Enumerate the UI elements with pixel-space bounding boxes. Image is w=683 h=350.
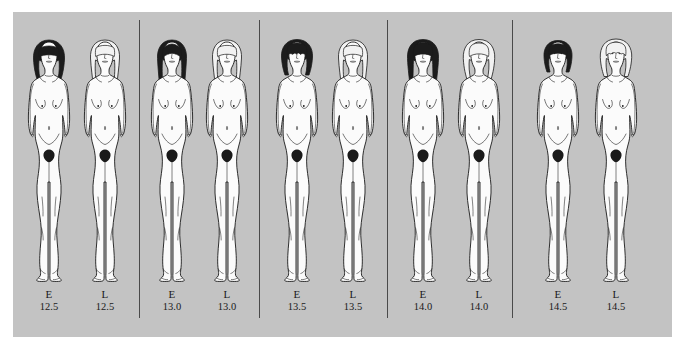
panel-separator-1 bbox=[139, 20, 140, 318]
stage-letter: L bbox=[587, 288, 645, 301]
stage-panel: E14.0L14.0 bbox=[388, 12, 512, 337]
subject-label: L14.5 bbox=[587, 288, 645, 313]
stage-letter: L bbox=[450, 288, 508, 301]
subject-figure bbox=[76, 22, 134, 284]
subject-label: L13.0 bbox=[198, 288, 256, 313]
stage-letter: E bbox=[20, 288, 78, 301]
subject-pair bbox=[513, 22, 658, 284]
subject-figure bbox=[198, 22, 256, 284]
subject-figure bbox=[143, 22, 201, 284]
panel-labels: E14.0L14.0 bbox=[388, 288, 512, 328]
subject-pair bbox=[140, 22, 259, 284]
age-value: 13.0 bbox=[198, 301, 256, 313]
subject-figure bbox=[450, 22, 508, 284]
subject-figure bbox=[20, 22, 78, 284]
subject-label: L13.5 bbox=[324, 288, 382, 313]
stage-letter: E bbox=[268, 288, 326, 301]
hair-front bbox=[287, 43, 307, 56]
panel-separator-3 bbox=[387, 20, 388, 318]
age-value: 14.5 bbox=[529, 301, 587, 313]
illustration-panel: E12.5L12.5 bbox=[13, 12, 672, 337]
stage-letter: E bbox=[529, 288, 587, 301]
stage-letter: E bbox=[394, 288, 452, 301]
age-value: 14.0 bbox=[394, 301, 452, 313]
subject-pair bbox=[260, 22, 387, 284]
subject-label: E13.5 bbox=[268, 288, 326, 313]
stage-letter: L bbox=[324, 288, 382, 301]
subject-pair bbox=[388, 22, 512, 284]
age-value: 14.0 bbox=[450, 301, 508, 313]
subject-label: E14.0 bbox=[394, 288, 452, 313]
subject-label: E12.5 bbox=[20, 288, 78, 313]
subject-figure bbox=[324, 22, 382, 284]
subject-figure bbox=[587, 22, 645, 284]
figure-root: E12.5L12.5 bbox=[0, 0, 683, 350]
stage-letter: E bbox=[143, 288, 201, 301]
subject-figure bbox=[394, 22, 452, 284]
subject-label: L14.0 bbox=[450, 288, 508, 313]
stage-panel: E14.5L14.5 bbox=[513, 12, 658, 337]
subject-label: E13.0 bbox=[143, 288, 201, 313]
age-value: 12.5 bbox=[76, 301, 134, 313]
hair-front bbox=[606, 42, 626, 56]
stage-panel: E13.5L13.5 bbox=[260, 12, 387, 337]
panel-separator-4 bbox=[512, 20, 513, 318]
panel-labels: E13.0L13.0 bbox=[140, 288, 259, 328]
panel-labels: E14.5L14.5 bbox=[513, 288, 658, 328]
age-value: 13.5 bbox=[268, 301, 326, 313]
stage-panel: E12.5L12.5 bbox=[14, 12, 139, 337]
stage-letter: L bbox=[198, 288, 256, 301]
stage-letter: L bbox=[76, 288, 134, 301]
age-value: 13.0 bbox=[143, 301, 201, 313]
subject-label: E14.5 bbox=[529, 288, 587, 313]
panel-separator-2 bbox=[259, 20, 260, 318]
panel-labels: E12.5L12.5 bbox=[14, 288, 139, 328]
panel-labels: E13.5L13.5 bbox=[260, 288, 387, 328]
subject-label: L12.5 bbox=[76, 288, 134, 313]
age-value: 13.5 bbox=[324, 301, 382, 313]
age-value: 12.5 bbox=[20, 301, 78, 313]
age-value: 14.5 bbox=[587, 301, 645, 313]
subject-pair bbox=[14, 22, 139, 284]
subject-figure bbox=[268, 22, 326, 284]
stage-panel: E13.0L13.0 bbox=[140, 12, 259, 337]
subject-figure bbox=[529, 22, 587, 284]
